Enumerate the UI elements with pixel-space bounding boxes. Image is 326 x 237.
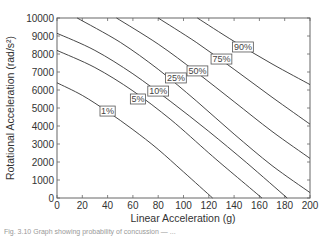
x-tick-label: 140 — [226, 200, 243, 211]
label-50pct: 50% — [187, 66, 208, 76]
y-axis-ticks: 0100020003000400050006000700080009000100… — [26, 13, 310, 204]
y-tick-label: 4000 — [32, 121, 55, 132]
plot-border — [57, 18, 310, 198]
x-tick-label: 0 — [54, 200, 60, 211]
label-text: 5% — [131, 94, 144, 104]
x-tick-label: 100 — [175, 200, 192, 211]
curve-5pct — [57, 50, 262, 198]
label-1pct: 1% — [100, 106, 115, 116]
label-75pct: 75% — [211, 54, 232, 64]
label-text: 50% — [188, 66, 206, 76]
curve-50pct — [117, 18, 311, 158]
label-text: 75% — [212, 54, 230, 64]
x-tick-label: 200 — [302, 200, 319, 211]
y-tick-label: 6000 — [32, 85, 55, 96]
y-tick-label: 9000 — [32, 31, 55, 42]
y-tick-label: 7000 — [32, 67, 55, 78]
y-tick-label: 1000 — [32, 175, 55, 186]
x-tick-label: 60 — [127, 200, 139, 211]
x-tick-label: 120 — [200, 200, 217, 211]
x-tick-label: 20 — [77, 200, 89, 211]
x-tick-label: 160 — [251, 200, 268, 211]
y-tick-label: 3000 — [32, 139, 55, 150]
x-tick-label: 40 — [102, 200, 114, 211]
label-10pct: 10% — [148, 86, 169, 96]
curve-10pct — [57, 33, 287, 198]
x-axis-title: Linear Acceleration (g) — [130, 212, 235, 224]
probability-contour-chart: 0100020003000400050006000700080009000100… — [0, 0, 326, 237]
label-text: 25% — [167, 73, 185, 83]
x-axis-ticks: 020406080100120140160180200 — [54, 18, 319, 211]
label-5pct: 5% — [130, 94, 145, 104]
plot-frame — [57, 18, 310, 198]
x-tick-label: 80 — [153, 200, 165, 211]
y-tick-label: 5000 — [32, 103, 55, 114]
curve-75pct — [158, 18, 310, 124]
label-text: 1% — [101, 106, 114, 116]
label-90pct: 90% — [233, 42, 254, 52]
y-tick-label: 8000 — [32, 49, 55, 60]
y-axis-title: Rotational Acceleration (rad/s²) — [4, 36, 16, 180]
y-tick-label: 2000 — [32, 157, 55, 168]
label-25pct: 25% — [166, 73, 187, 83]
probability-curves — [57, 18, 310, 198]
label-text: 90% — [234, 42, 252, 52]
y-tick-label: 10000 — [26, 13, 54, 24]
probability-labels: 1%5%10%25%50%75%90% — [100, 42, 253, 116]
figure-caption: Fig. 3.10 Graph showing probability of c… — [4, 228, 322, 237]
label-text: 10% — [149, 86, 167, 96]
x-tick-label: 180 — [276, 200, 293, 211]
